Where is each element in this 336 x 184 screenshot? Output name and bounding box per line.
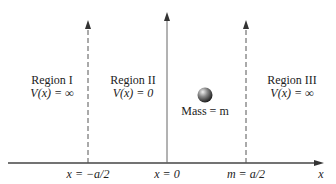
region-1-potential: V(x) = ∞ bbox=[22, 87, 82, 100]
left-wall-dashed-line bbox=[85, 20, 91, 163]
right-wall-label: m = a/2 bbox=[214, 168, 278, 181]
x-axis-label: x bbox=[314, 168, 328, 181]
mass-ball-icon bbox=[198, 88, 213, 103]
region-3-potential: V(x) = ∞ bbox=[260, 87, 324, 100]
mass-label: Mass = m bbox=[174, 105, 236, 118]
right-wall-dashed-line bbox=[243, 20, 249, 163]
left-wall-label: x = −a/2 bbox=[58, 168, 118, 181]
x-axis bbox=[8, 160, 324, 166]
center-label: x = 0 bbox=[142, 168, 192, 181]
center-axis bbox=[164, 12, 170, 163]
region-2-potential: V(x) = 0 bbox=[103, 87, 163, 100]
